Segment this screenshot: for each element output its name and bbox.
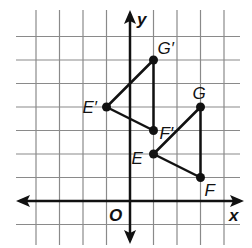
coordinate-grid-diagram: x y O EFGE′F′G′	[0, 0, 252, 248]
vertex-label: E′	[83, 98, 98, 117]
vertex-point	[196, 103, 205, 112]
vertex-label: E	[132, 149, 144, 168]
y-axis-label: y	[136, 10, 148, 29]
axes: x y O	[16, 10, 244, 244]
vertex-point	[149, 126, 158, 135]
vertex-label: G′	[158, 39, 175, 58]
origin-label: O	[109, 206, 122, 225]
vertex-point	[149, 150, 158, 159]
vertex-label: F′	[160, 124, 174, 143]
vertex-point	[102, 103, 111, 112]
vertex-label: G	[193, 84, 206, 103]
vertex-label: F	[205, 181, 217, 200]
x-axis-label: x	[228, 206, 240, 225]
grid-lines	[16, 10, 240, 245]
